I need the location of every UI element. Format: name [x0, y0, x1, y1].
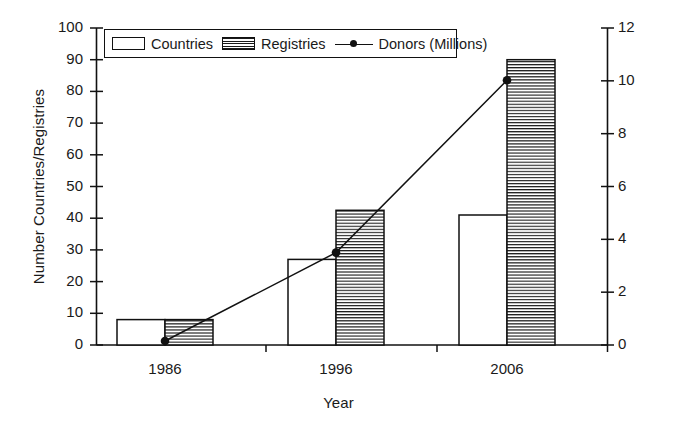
left-tick-label-30: 30: [43, 240, 83, 257]
x-tick-label-1986: 1986: [120, 360, 210, 377]
x-axis-title: Year: [0, 394, 677, 411]
legend-item-donors: Donors (Millions): [335, 36, 488, 52]
x-axis-ticks: [266, 345, 608, 352]
bar-countries-1996: [288, 259, 336, 345]
left-tick-label-80: 80: [43, 81, 83, 98]
bar-registries-2006: [507, 60, 555, 345]
right-tick-label-6: 6: [618, 177, 658, 194]
left-tick-label-40: 40: [43, 208, 83, 225]
bar-countries-1986: [117, 320, 165, 345]
left-tick-label-100: 100: [43, 18, 83, 35]
donors-point-1986: [161, 337, 170, 346]
left-tick-label-50: 50: [43, 177, 83, 194]
legend-label-donors: Donors (Millions): [379, 36, 488, 52]
right-tick-label-2: 2: [618, 282, 658, 299]
left-tick-label-90: 90: [43, 50, 83, 67]
donors-point-1996: [332, 248, 341, 257]
legend-item-registries: Registries: [222, 36, 325, 52]
left-tick-label-70: 70: [43, 113, 83, 130]
left-tick-label-0: 0: [43, 335, 83, 352]
bar-registries-1996: [336, 210, 384, 345]
legend-label-registries: Registries: [261, 36, 325, 52]
right-tick-label-0: 0: [618, 335, 658, 352]
legend-dot-icon: [350, 40, 357, 47]
right-tick-label-12: 12: [618, 18, 658, 35]
right-tick-label-10: 10: [618, 71, 658, 88]
left-tick-label-20: 20: [43, 272, 83, 289]
legend-line-marker-icon: [335, 37, 373, 50]
left-tick-label-10: 10: [43, 303, 83, 320]
y-axis-title-left: Number Countries/Registries: [30, 27, 47, 347]
chart-figure: 100 90 80 70 60 50 40 30 20 10 0 12 10 8…: [0, 0, 677, 424]
legend-label-countries: Countries: [151, 36, 213, 52]
donors-point-2006: [503, 76, 512, 85]
legend-swatch-countries-icon: [112, 37, 145, 50]
x-tick-label-1996: 1996: [291, 360, 381, 377]
chart-legend: Countries Registries Donors (Millions): [104, 29, 457, 58]
legend-item-countries: Countries: [112, 36, 213, 52]
left-tick-label-60: 60: [43, 145, 83, 162]
bar-countries-2006: [459, 215, 507, 345]
bar-registries-1986: [165, 320, 213, 345]
right-tick-label-4: 4: [618, 229, 658, 246]
x-tick-label-2006: 2006: [462, 360, 552, 377]
legend-swatch-registries-icon: [222, 37, 255, 50]
right-tick-label-8: 8: [618, 124, 658, 141]
